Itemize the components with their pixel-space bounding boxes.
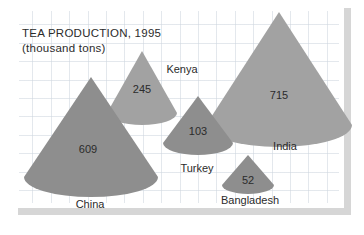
cone-value-kenya: 245 [133, 83, 151, 95]
cone-country-kenya: Kenya [166, 63, 197, 75]
cone-country-china: China [76, 198, 105, 210]
chart-subtitle: (thousand tons) [22, 41, 161, 56]
chart-title: TEA PRODUCTION, 1995 [22, 26, 161, 41]
cone-value-bangladesh: 52 [242, 174, 254, 186]
cone-value-china: 609 [79, 143, 97, 155]
tea-production-chart: 715 India 245 Kenya 609 China 103 Turkey… [0, 0, 364, 235]
cone-country-turkey: Turkey [180, 162, 213, 174]
cone-value-india: 715 [270, 89, 288, 101]
cone-country-bangladesh: Bangladesh [221, 194, 279, 206]
cone-china [24, 77, 158, 201]
cone-country-india: India [273, 140, 297, 152]
chart-title-block: TEA PRODUCTION, 1995 (thousand tons) [22, 26, 161, 56]
cone-value-turkey: 103 [189, 125, 207, 137]
